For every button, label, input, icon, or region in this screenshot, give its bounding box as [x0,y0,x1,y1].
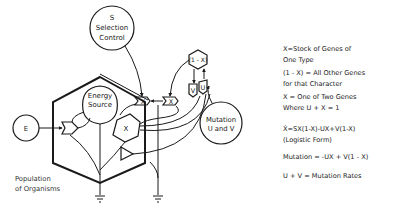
mutation-label: Mutation [206,116,236,124]
selection-control: Control [99,34,124,42]
legend-item: X=Stock of Genes ofOne Type [283,44,351,65]
legend-item: Ẋ=SX(1-X)-UX+V(1-X)(Logistic Form) [283,124,355,145]
mult1-label: X [141,98,146,106]
amplifier-triangle [121,147,133,160]
legend-item: U + V = Mutation Rates [283,171,362,182]
energy-label: Energy [88,92,113,100]
e-label: E [24,125,28,133]
legend-item: Mutation = -UX + V(1 - X) [283,152,368,163]
mult2-label: X [169,98,174,106]
v-label: V [191,87,196,95]
heat-sink-1 [95,196,105,202]
heat-sink-2 [153,196,163,202]
legend-item: X = One of Two GenesWhere U + X = 1 [283,92,357,113]
x-stock-label: X [124,125,129,133]
mutation-uv-label: U and V [208,125,235,133]
legend-item: (1 - X) = All Other Genesfor that Charac… [283,68,365,89]
population-label: Population of Organisms [15,174,60,194]
selection-label: Selection [96,24,128,32]
u-label: U [201,84,206,92]
source-label: Source [88,101,112,109]
selection-s: S [110,14,115,22]
other-genes-label: (1 - X) [189,56,208,63]
interaction-gate [62,122,78,134]
